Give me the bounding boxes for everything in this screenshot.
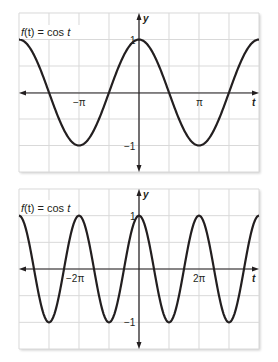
x-tick-2pi: 2π <box>193 273 206 284</box>
chart-bottom-svg: f(t) = cos t y t −2π 2π 1 −1 <box>0 176 278 362</box>
x-tick-neg-pi: −π <box>73 97 86 108</box>
chart-bottom-panel: f(t) = cos t y t −2π 2π 1 −1 <box>0 176 278 362</box>
x-tick-neg-2pi: −2π <box>66 273 84 284</box>
y-axis-label: y <box>142 13 149 24</box>
y-axis-label: y <box>142 189 149 200</box>
x-tick-pi: π <box>196 97 203 108</box>
y-tick-1: 1 <box>130 35 136 46</box>
y-tick-neg-1: −1 <box>124 141 136 152</box>
y-tick-1: 1 <box>130 211 136 222</box>
y-tick-neg-1: −1 <box>124 317 136 328</box>
chart-title: f(t) = cos t <box>21 26 71 38</box>
chart-title: f(t) = cos t <box>21 202 71 214</box>
chart-top-panel: f(t) = cos t y t −π π 1 −1 <box>0 0 278 180</box>
chart-top-svg: f(t) = cos t y t −π π 1 −1 <box>0 0 278 180</box>
